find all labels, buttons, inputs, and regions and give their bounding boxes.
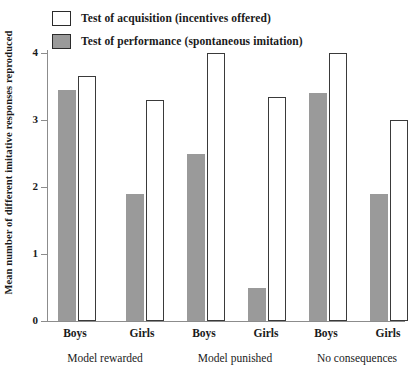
legend-item-acquisition: Test of acquisition (incentives offered) — [52, 8, 352, 28]
bar-performance-3 — [248, 288, 266, 322]
y-tick-label-3: 3 — [22, 114, 38, 125]
x-tick-label-boys-rewarded: Boys — [45, 327, 105, 339]
legend-swatch-open-icon — [52, 11, 71, 26]
y-tick-label-4: 4 — [22, 47, 38, 58]
x-group-label-model-punished: Model punished — [170, 352, 300, 364]
bar-acquisition-5 — [390, 120, 408, 321]
y-tick-label-2: 2 — [22, 181, 38, 192]
x-group-label-no-consequences: No consequences — [292, 352, 419, 364]
chart-legend: Test of acquisition (incentives offered)… — [52, 8, 352, 54]
x-tick-label-boys-none: Boys — [296, 327, 356, 339]
bar-performance-1 — [126, 194, 144, 321]
legend-label-performance: Test of performance (spontaneous imitati… — [81, 35, 303, 47]
y-tick-label-0: 0 — [22, 315, 38, 326]
y-axis-title: Mean number of different imitative respo… — [0, 0, 16, 325]
bar-acquisition-4 — [329, 53, 347, 321]
bar-performance-5 — [370, 194, 388, 321]
y-tick-mark-0 — [41, 321, 48, 322]
x-group-label-model-rewarded: Model rewarded — [40, 352, 170, 364]
legend-label-acquisition: Test of acquisition (incentives offered) — [81, 12, 271, 24]
legend-swatch-filled-icon — [52, 34, 71, 49]
y-tick-label-1: 1 — [22, 248, 38, 259]
bar-chart-figure: Test of acquisition (incentives offered)… — [0, 0, 419, 381]
x-tick-label-girls-none: Girls — [358, 327, 418, 339]
plot-area — [47, 53, 405, 321]
bar-acquisition-3 — [268, 97, 286, 321]
bar-performance-0 — [58, 90, 76, 321]
bar-acquisition-1 — [146, 100, 164, 321]
bar-acquisition-2 — [207, 53, 225, 321]
bar-performance-2 — [187, 154, 205, 322]
bar-acquisition-0 — [78, 76, 96, 321]
y-axis-title-text: Mean number of different imitative respo… — [3, 30, 14, 294]
x-axis-line — [47, 321, 405, 322]
bar-performance-4 — [309, 93, 327, 321]
legend-item-performance: Test of performance (spontaneous imitati… — [52, 31, 352, 51]
x-tick-label-girls-punished: Girls — [236, 327, 296, 339]
x-tick-label-boys-punished: Boys — [174, 327, 234, 339]
x-tick-label-girls-rewarded: Girls — [112, 327, 172, 339]
